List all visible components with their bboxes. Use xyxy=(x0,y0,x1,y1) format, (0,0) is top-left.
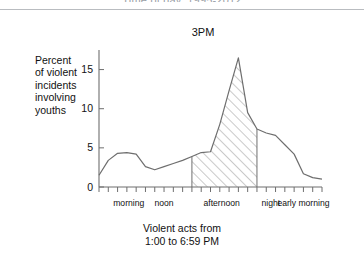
y-tick-label: 15 xyxy=(81,63,93,75)
shaded-region-hatched xyxy=(192,58,257,187)
x-category-label-afternoon: afternoon xyxy=(203,198,239,208)
y-tick-label: 10 xyxy=(81,102,93,114)
y-axis-group: 051015 xyxy=(81,50,104,193)
figure-caption: Violent acts from 1:00 to 6:59 PM xyxy=(0,222,364,247)
y-tick-label: 0 xyxy=(87,181,93,193)
plot-area: 051015 xyxy=(0,0,364,258)
x-category-label-early-morning: early morning xyxy=(277,198,329,208)
caption-line-1: Violent acts from xyxy=(0,222,364,235)
x-category-label-morning: morning xyxy=(113,198,144,208)
chart-figure: Time of day, 1995-2012 3PM Percent of vi… xyxy=(0,0,364,258)
x-axis-group xyxy=(99,187,322,192)
caption-line-2: 1:00 to 6:59 PM xyxy=(0,235,364,248)
x-category-label-noon: noon xyxy=(154,198,173,208)
y-tick-label: 5 xyxy=(87,141,93,153)
